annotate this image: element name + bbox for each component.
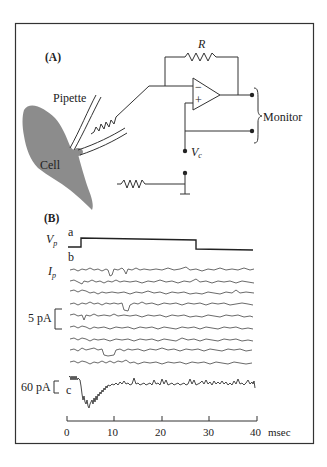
monitor-label: Monitor [263, 110, 302, 124]
monitor-terminal-top [250, 93, 254, 97]
ip-trace-1 [70, 267, 254, 276]
ensemble-average-trace [69, 376, 255, 408]
axis-tick-0: 0 [64, 426, 70, 438]
cell-label: Cell [40, 158, 61, 172]
pipette-resistor-icon [91, 117, 116, 134]
ip-trace-8 [70, 348, 252, 356]
ip-trace-7 [70, 338, 253, 341]
voltage-pulse-trace [68, 238, 253, 250]
ip-trace-6 [70, 326, 253, 329]
ip-trace-2 [70, 279, 254, 284]
scale-60pa-label: 60 pA [21, 380, 51, 394]
axis-tick-40: 40 [250, 426, 262, 438]
noninverting-wire [185, 103, 193, 150]
opamp-noninverting-sign: + [195, 93, 202, 107]
monitor-brace [254, 88, 262, 143]
vc-terminal [183, 149, 187, 153]
patch-clamp-figure: (A) Cell Pipette R − + Vc Monitor (B) [0, 0, 327, 467]
opamp-inverting-sign: − [195, 80, 202, 94]
trace-c-label: c [66, 383, 71, 397]
axis-tick-10: 10 [107, 426, 119, 438]
ip-trace-5 [70, 314, 253, 320]
time-axis [67, 416, 257, 421]
axis-tick-20: 20 [155, 426, 167, 438]
scale-5pa-label: 5 pA [28, 311, 52, 325]
trace-b-label: b [68, 250, 74, 264]
single-channel-traces [70, 267, 254, 364]
bath-resistor-icon [117, 180, 185, 188]
panel-b-label: (B) [44, 212, 60, 225]
pipette-label: Pipette [53, 91, 86, 105]
monitor-terminal-bottom [250, 129, 254, 133]
ip-trace-9 [70, 360, 252, 364]
ip-trace-3 [70, 290, 254, 294]
feedback-wire [165, 57, 185, 86]
input-wire [116, 86, 193, 117]
scale-bar-60pa [54, 381, 59, 393]
feedback-resistor-icon [185, 53, 216, 61]
vp-label: Vp [46, 232, 57, 248]
ip-label: Ip [47, 264, 56, 280]
scale-bar-5pa [55, 309, 62, 329]
vc-label: Vc [191, 145, 202, 160]
trace-a-label: a [68, 225, 74, 239]
feedback-resistor-label: R [197, 37, 206, 51]
panel-a-label: (A) [45, 51, 61, 64]
feedback-wire-right [216, 57, 238, 95]
axis-tick-30: 30 [203, 426, 215, 438]
ip-trace-4 [70, 302, 253, 311]
axis-unit-label: msec [268, 426, 291, 438]
